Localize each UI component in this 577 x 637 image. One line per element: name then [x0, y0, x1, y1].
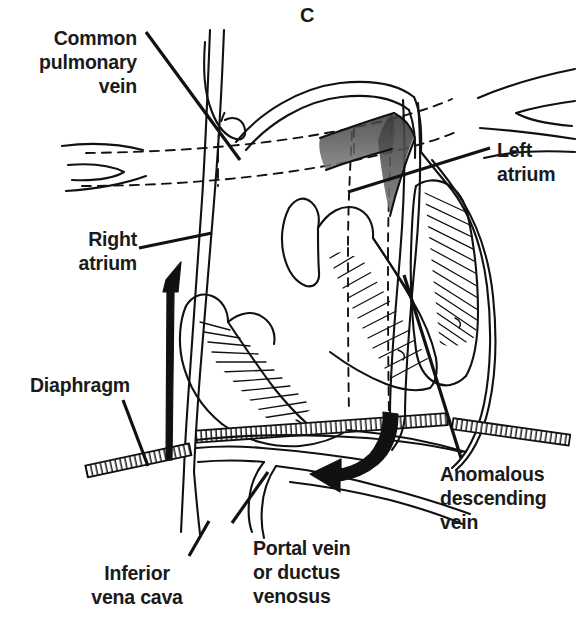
label-portal-vein-or-ductus-venosus: Portal vein or ductus venosus	[253, 536, 351, 608]
anatomical-figure: C Common pulmonary vein Right atrium Dia…	[0, 0, 577, 637]
label-anomalous-descending-vein: Anomalous descending vein	[440, 462, 546, 534]
diaphragm-band-left	[85, 443, 191, 477]
left-ventricle-detail-mark	[398, 350, 404, 360]
right-ventricle-trabeculations	[200, 322, 320, 428]
diaphragm-band-right	[452, 418, 570, 445]
label-common-pulmonary-vein: Common pulmonary vein	[39, 26, 137, 98]
inferior-vena-cava	[181, 470, 200, 534]
label-diaphragm: Diaphragm	[30, 373, 130, 397]
label-right-atrium: Right atrium	[79, 227, 137, 275]
right-pulmonary-veins	[62, 144, 146, 191]
common-pulmonary-vein-leader	[146, 32, 240, 160]
label-left-atrium: Left atrium	[497, 138, 555, 186]
panel-letter: C	[300, 5, 314, 25]
atrial-septum-shading	[319, 114, 414, 214]
leader-lines	[123, 32, 490, 556]
interventricular-septum-border	[373, 238, 437, 388]
right-atrium-leader	[139, 233, 212, 248]
inferior-vena-cava-upward-arrow	[163, 262, 181, 460]
label-inferior-vena-cava: Inferior vena cava	[62, 561, 212, 609]
portal-vein-ductus-venosus	[196, 447, 470, 539]
